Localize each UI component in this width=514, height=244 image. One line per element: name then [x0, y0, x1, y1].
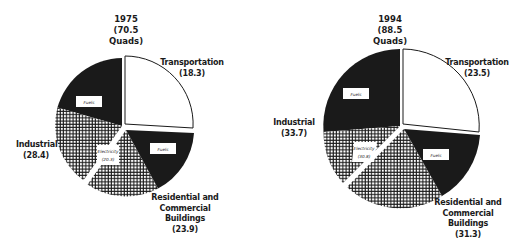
- label-residential: Residential and Commercial Buildings (31…: [422, 198, 514, 240]
- chart-total: (88.5 Quads): [360, 25, 420, 47]
- electricity-tag-text: Electricity: [354, 146, 375, 151]
- pie-chart-1975: Fuels Fuels Electricity (20.3) 1975 (70.…: [0, 0, 257, 244]
- label-transportation: Transportation (18.3): [160, 58, 224, 79]
- chart-title-1975: 1975 (70.5 Quads): [96, 14, 156, 47]
- chart-title-1994: 1994 (88.5 Quads): [360, 14, 420, 47]
- fuels-tag-industrial-text: Fuels: [84, 100, 96, 105]
- label-industrial-value: (28.4): [16, 151, 56, 162]
- label-transportation: Transportation (23.5): [445, 58, 509, 79]
- label-transportation-value: (23.5): [445, 69, 509, 80]
- electricity-tag: [97, 145, 119, 165]
- chart-year: 1975: [96, 14, 156, 25]
- label-transportation-name: Transportation: [445, 58, 509, 69]
- label-transportation-name: Transportation: [160, 58, 224, 69]
- label-industrial: Industrial (33.7): [273, 118, 315, 139]
- fuels-tag-residential-text: Fuels: [158, 147, 170, 152]
- chart-total: (70.5 Quads): [96, 25, 156, 47]
- label-industrial: Industrial (28.4): [16, 140, 56, 161]
- label-transportation-value: (18.3): [160, 69, 224, 80]
- label-industrial-value: (33.7): [273, 129, 315, 140]
- label-residential: Residential and Commercial Buildings (23…: [140, 193, 230, 235]
- label-industrial-name: Industrial: [273, 118, 315, 129]
- fuels-tag-residential-text: Fuels: [431, 153, 443, 158]
- label-residential-line2: Commercial Buildings: [140, 204, 230, 225]
- fuels-tag-industrial-text: Fuels: [351, 92, 363, 97]
- chart-year: 1994: [360, 14, 420, 25]
- label-residential-value: (23.9): [140, 225, 230, 236]
- label-residential-line2: Commercial Buildings: [422, 209, 514, 230]
- pie-chart-1994: Fuels Fuels Electricity (30.8) 1994 (88.…: [257, 0, 514, 244]
- label-industrial-name: Industrial: [16, 140, 56, 151]
- label-residential-value: (31.3): [422, 230, 514, 241]
- electricity-tag-value: (30.8): [358, 154, 371, 159]
- electricity-tag: [352, 142, 377, 162]
- label-residential-line1: Residential and: [422, 198, 514, 209]
- electricity-tag-value: (20.3): [102, 157, 115, 162]
- label-residential-line1: Residential and: [140, 193, 230, 204]
- electricity-tag-text: Electricity: [98, 149, 119, 154]
